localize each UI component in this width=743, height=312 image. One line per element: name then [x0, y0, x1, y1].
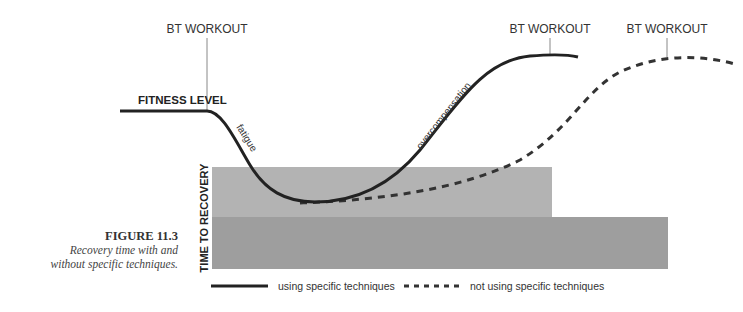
recovery-bar-with-techniques: [212, 167, 552, 218]
fitness-level-label: FITNESS LEVEL: [138, 94, 227, 106]
caption-line-1: Recovery time with and: [0, 243, 178, 257]
workout-label-2: BT WORKOUT: [509, 22, 591, 36]
legend-solid-label: using specific techniques: [278, 280, 395, 292]
recovery-bar-without-techniques: [212, 217, 668, 269]
overcompensation-label: overcompensation: [414, 80, 473, 151]
time-to-recovery-label: TIME TO RECOVERY: [198, 163, 210, 272]
workout-label-3: BT WORKOUT: [626, 22, 708, 36]
caption-line-2: without specific techniques.: [0, 257, 178, 271]
workout-label-1: BT WORKOUT: [166, 22, 248, 36]
fatigue-label: fatigue: [234, 122, 259, 154]
figure-title: FIGURE 11.3: [105, 229, 178, 244]
figure-caption: Recovery time with and without specific …: [0, 243, 178, 271]
legend-dashed-label: not using specific techniques: [470, 280, 604, 292]
